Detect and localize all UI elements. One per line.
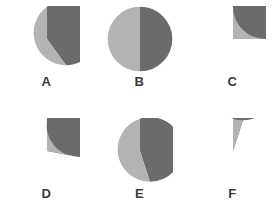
pie-e-label: E (135, 187, 144, 201)
pie-f-graphic (200, 118, 266, 184)
pie-chart-b: B (93, 0, 186, 112)
pie-c-label: C (228, 75, 238, 89)
pie-c-graphic (200, 6, 266, 72)
pie-chart-figure: A B C D E (0, 0, 279, 224)
pie-chart-d: D (0, 112, 93, 224)
pie-a-graphic (14, 6, 80, 72)
pie-chart-e: E (93, 112, 186, 224)
pie-d-svg (14, 118, 80, 184)
pie-b-label: B (135, 75, 145, 89)
pie-c-svg (200, 6, 266, 72)
pie-chart-grid: A B C D E (0, 0, 279, 224)
pie-e-graphic (107, 118, 173, 184)
pie-chart-c: C (186, 0, 279, 112)
pie-f-svg (200, 118, 266, 184)
pie-slice-minor (107, 7, 139, 72)
pie-b-svg (107, 6, 173, 72)
pie-chart-f: F (186, 112, 279, 224)
pie-e-svg (107, 118, 173, 184)
pie-f-label: F (228, 187, 236, 201)
pie-chart-a: A (0, 0, 93, 112)
pie-a-label: A (42, 75, 52, 89)
pie-d-graphic (14, 118, 80, 184)
pie-slice-minor (233, 119, 243, 151)
pie-slice-major (140, 7, 172, 72)
pie-b-graphic (107, 6, 173, 72)
pie-d-label: D (42, 187, 52, 201)
pie-a-svg (14, 6, 80, 72)
